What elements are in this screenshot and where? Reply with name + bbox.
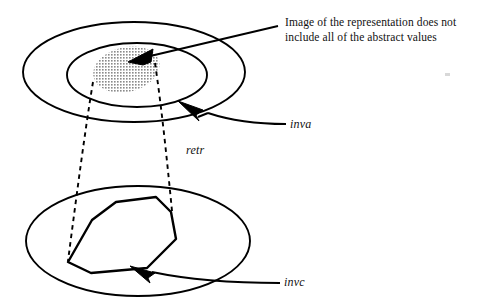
caption-text: Image of the representation does not inc… xyxy=(285,15,475,44)
label-retr: retr xyxy=(186,143,204,158)
set-mapping-diagram xyxy=(0,0,479,308)
label-invc: invc xyxy=(284,275,305,290)
scan-speck-artifact xyxy=(445,73,450,76)
diagram-page: Image of the representation does not inc… xyxy=(0,0,479,308)
dashed-connector-left xyxy=(68,82,93,261)
inva-leader-arrow xyxy=(178,101,286,124)
invc-leader-arrow xyxy=(130,266,280,283)
concrete-ellipse xyxy=(26,186,250,296)
label-inva: inva xyxy=(290,117,311,132)
concrete-level-group xyxy=(26,186,250,296)
concrete-polygon xyxy=(68,197,176,273)
abstract-level-group xyxy=(23,22,245,122)
